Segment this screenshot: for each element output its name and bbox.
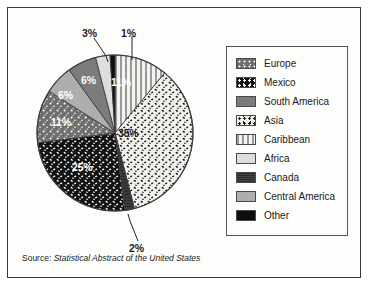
legend-label-south-america: South America (264, 96, 329, 107)
pie-label-other: 1% (121, 27, 136, 39)
chart-legend: Europe Mexico South America Asia Caribbe… (226, 46, 348, 236)
chart-figure: 11% 35% 25% 11% 6% 6% 3% 1% 2% Europe Me… (7, 7, 361, 278)
legend-swatch-other (236, 210, 256, 221)
legend-label-caribbean: Caribbean (264, 134, 310, 145)
legend-label-europe: Europe (264, 58, 296, 69)
legend-swatch-mexico (236, 77, 256, 88)
legend-item-mexico[interactable]: Mexico (227, 73, 347, 92)
leader-line-canada (128, 214, 138, 241)
legend-label-mexico: Mexico (264, 77, 296, 88)
legend-swatch-africa (236, 153, 256, 164)
legend-swatch-south-america (236, 96, 256, 107)
legend-item-asia[interactable]: Asia (227, 111, 347, 130)
legend-swatch-central-america (236, 191, 256, 202)
legend-label-canada: Canada (264, 172, 299, 183)
pie-label-central-america: 6% (58, 89, 73, 101)
pie-label-mexico: 25% (72, 161, 92, 173)
pie-label-south-america: 6% (81, 74, 96, 86)
legend-swatch-asia (236, 115, 256, 126)
legend-label-asia: Asia (264, 115, 283, 126)
pie-label-caribbean: 11% (111, 76, 131, 88)
legend-swatch-canada (236, 172, 256, 183)
legend-item-europe[interactable]: Europe (227, 54, 347, 73)
source-title: Statistical Abstract of the United State… (54, 253, 201, 263)
source-note: Source: Statistical Abstract of the Unit… (22, 253, 200, 263)
legend-swatch-europe (236, 58, 256, 69)
legend-label-central-america: Central America (264, 191, 335, 202)
pie-label-europe: 11% (51, 116, 71, 128)
pie-chart: 11% 35% 25% 11% 6% 6% (35, 53, 195, 213)
legend-item-south-america[interactable]: South America (227, 92, 347, 111)
source-prefix: Source: (22, 253, 51, 263)
legend-swatch-caribbean (236, 134, 256, 145)
pie-label-asia: 35% (118, 127, 138, 139)
legend-label-other: Other (264, 210, 289, 221)
legend-item-other[interactable]: Other (227, 206, 347, 225)
legend-item-central-america[interactable]: Central America (227, 187, 347, 206)
legend-item-africa[interactable]: Africa (227, 149, 347, 168)
legend-item-caribbean[interactable]: Caribbean (227, 130, 347, 149)
legend-item-canada[interactable]: Canada (227, 168, 347, 187)
legend-label-africa: Africa (264, 153, 290, 164)
pie-label-africa: 3% (82, 27, 97, 39)
